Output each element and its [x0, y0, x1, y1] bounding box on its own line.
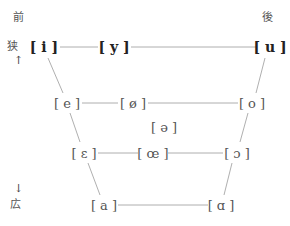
- vowel-e: [ e ]: [54, 97, 80, 110]
- front-label: 前: [13, 12, 24, 23]
- open-label: 広: [10, 199, 21, 210]
- vowel-u: [ u ]: [253, 40, 286, 54]
- vowel-o-slash: [ ø ]: [120, 97, 146, 110]
- vowel-epsilon: [ ɛ ]: [71, 147, 96, 160]
- up-arrow-icon: ↑: [14, 55, 23, 66]
- vowel-i: [ i ]: [30, 40, 58, 54]
- vowel-y: [ y ]: [98, 40, 129, 54]
- vowel-open-o: [ ɔ ]: [224, 147, 250, 160]
- down-arrow-icon: ↓: [14, 183, 23, 194]
- vowel-a: [ a ]: [91, 199, 117, 212]
- vowel-schwa: [ ə ]: [151, 121, 177, 134]
- vowel-o: [ o ]: [239, 97, 265, 110]
- vowel-alpha: [ ɑ ]: [208, 199, 235, 212]
- back-label: 後: [262, 12, 273, 23]
- vowel-oe: [ œ ]: [137, 147, 168, 160]
- vowel-trapezoid-lines: [0, 0, 290, 226]
- close-label: 狭: [7, 41, 18, 52]
